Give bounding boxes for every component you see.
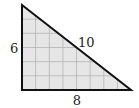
triangle-diagram: 6 10 8 [0, 0, 139, 108]
label-hypotenuse: 10 [78, 35, 95, 50]
label-horizontal-leg: 8 [73, 93, 81, 108]
label-vertical-leg: 6 [10, 41, 18, 56]
